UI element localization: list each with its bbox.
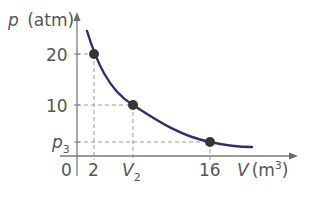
pv-diagram: p (atm) 20 10 p3 0 2 V2 16 V(m3) (0, 0, 310, 202)
point-c-dot (205, 137, 215, 147)
x-axis-arrow-icon (289, 153, 298, 160)
y-tick-20: 20 (46, 45, 68, 65)
x-axis-label: V(m3) (237, 159, 288, 180)
point-b-dot (128, 100, 138, 110)
y-tick-10: 10 (46, 96, 68, 116)
y-axis-arrow-icon (74, 12, 81, 21)
axes (60, 18, 292, 176)
point-a-dot (89, 49, 99, 59)
y-tick-p3: p3 (51, 132, 70, 156)
dashed-guides (77, 54, 210, 160)
x-tick-v2: V2 (122, 160, 141, 184)
x-tick-origin: 0 (61, 160, 72, 180)
x-tick-2: 2 (88, 160, 99, 180)
x-tick-16: 16 (199, 160, 221, 180)
y-axis-label: p (atm) (7, 10, 74, 30)
isotherm-curve (87, 31, 252, 147)
